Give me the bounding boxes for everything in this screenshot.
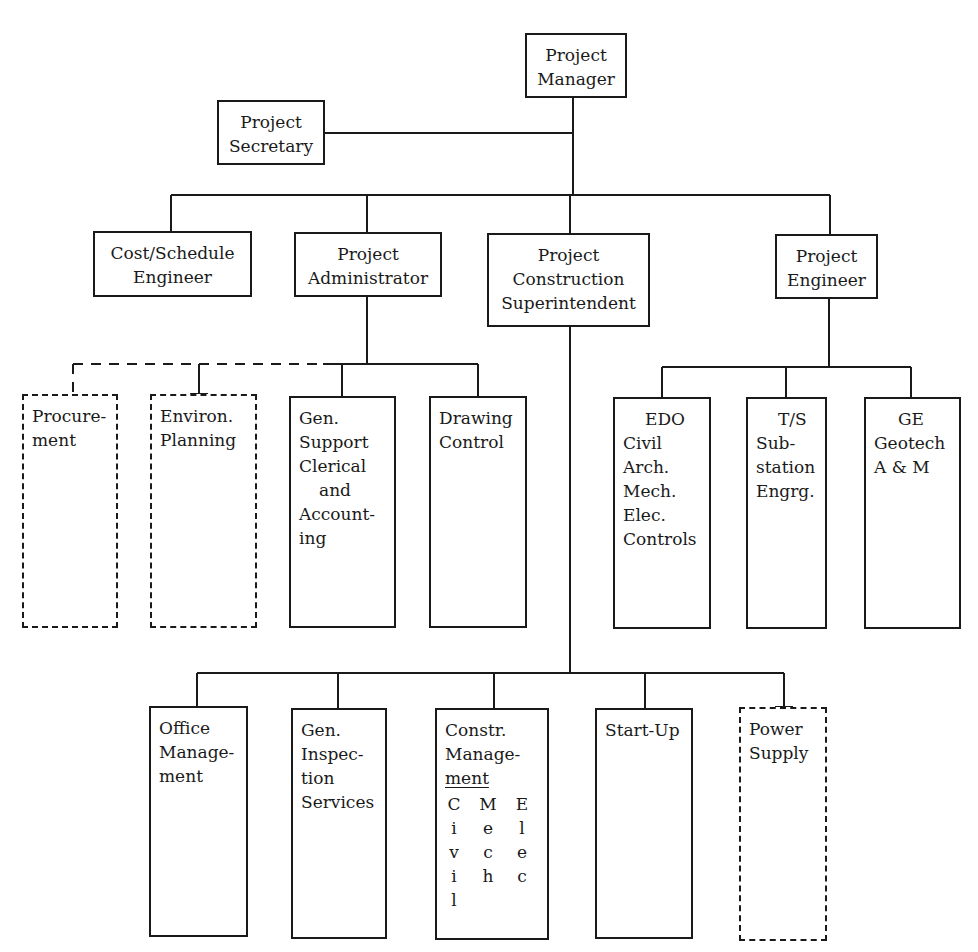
letter: M xyxy=(479,792,496,816)
node-label: Manager xyxy=(529,67,623,91)
node-label: Construction xyxy=(491,267,646,291)
letter: c xyxy=(517,864,527,888)
letter: l xyxy=(519,816,524,840)
node-environ-planning: Environ. Planning xyxy=(150,394,257,628)
letter: v xyxy=(449,840,459,864)
letter: e xyxy=(517,840,527,864)
node-label: Control xyxy=(439,430,525,454)
letter: e xyxy=(483,816,493,840)
node-label: Environ. xyxy=(160,404,255,428)
node-label: ment xyxy=(445,766,547,790)
discipline-mech: M e c h xyxy=(479,792,497,912)
node-label: Planning xyxy=(160,428,255,452)
node-label: station xyxy=(756,455,825,479)
node-label: Supply xyxy=(749,741,825,765)
letter: l xyxy=(451,888,456,912)
node-label: Start-Up xyxy=(605,718,691,742)
node-label: Superintendent xyxy=(491,291,646,315)
node-label: A & M xyxy=(874,455,959,479)
node-drawing-control: Drawing Control xyxy=(429,396,527,628)
node-label: Arch. xyxy=(623,455,709,479)
letter: h xyxy=(483,864,494,888)
node-label: Geotech xyxy=(874,431,959,455)
node-label: Manage- xyxy=(159,740,246,764)
node-label: Account- xyxy=(299,502,394,526)
node-project-administrator: Project Administrator xyxy=(294,232,442,297)
node-label: Cost/Schedule xyxy=(97,241,248,265)
node-label: Procure- xyxy=(32,404,116,428)
letter: E xyxy=(516,792,528,816)
node-label: Support xyxy=(299,430,394,454)
node-label: Elec. xyxy=(623,503,709,527)
node-label: Manage- xyxy=(445,742,547,766)
node-label: Engineer xyxy=(97,265,248,289)
node-label: GE xyxy=(874,407,959,431)
node-label: Services xyxy=(301,790,385,814)
node-label: and xyxy=(299,478,394,502)
letter: i xyxy=(451,864,456,888)
node-label: Gen. xyxy=(301,718,385,742)
node-cost-schedule-engineer: Cost/Schedule Engineer xyxy=(93,231,252,297)
node-label: Project xyxy=(491,243,646,267)
node-label: Inspec- xyxy=(301,742,385,766)
node-label: Office xyxy=(159,716,246,740)
node-label: Civil xyxy=(623,431,709,455)
node-edo: EDO Civil Arch. Mech. Elec. Controls xyxy=(613,397,711,629)
node-label: Project xyxy=(298,242,438,266)
node-project-secretary: Project Secretary xyxy=(217,100,325,165)
node-label: Power xyxy=(749,717,825,741)
node-label: Controls xyxy=(623,527,709,551)
node-label: Engrg. xyxy=(756,479,825,503)
node-project-manager: Project Manager xyxy=(525,33,627,98)
node-label: T/S xyxy=(756,407,825,431)
node-label: Project xyxy=(779,244,874,268)
node-ts-substation: T/S Sub- station Engrg. xyxy=(746,397,827,629)
node-label: Mech. xyxy=(623,479,709,503)
node-label: Secretary xyxy=(221,134,321,158)
letter: i xyxy=(451,816,456,840)
node-start-up: Start-Up xyxy=(595,708,693,939)
node-label: ment xyxy=(159,764,246,788)
node-label: Sub- xyxy=(756,431,825,455)
node-label: tion xyxy=(301,766,385,790)
node-constr-management: Constr. Manage- ment C i v i l M e c h E… xyxy=(435,708,549,940)
discipline-columns: C i v i l M e c h E l e c xyxy=(445,792,531,912)
letter: c xyxy=(483,840,493,864)
node-label: Gen. xyxy=(299,406,394,430)
node-label: Drawing xyxy=(439,406,525,430)
node-label: Project xyxy=(221,110,321,134)
node-label: Engineer xyxy=(779,268,874,292)
node-gen-support: Gen. Support Clerical and Account- ing xyxy=(289,396,396,628)
node-label: Clerical xyxy=(299,454,394,478)
node-ge-geotech: GE Geotech A & M xyxy=(864,397,961,629)
discipline-civil: C i v i l xyxy=(445,792,463,912)
node-office-management: Office Manage- ment xyxy=(149,706,248,937)
node-label: ing xyxy=(299,526,394,550)
discipline-elec: E l e c xyxy=(513,792,531,912)
node-label: Constr. xyxy=(445,718,547,742)
node-procurement: Procure- ment xyxy=(22,394,118,628)
node-construction-superintendent: Project Construction Superintendent xyxy=(487,233,650,327)
node-label: EDO xyxy=(623,407,709,431)
node-project-engineer: Project Engineer xyxy=(775,234,878,299)
node-power-supply: Power Supply xyxy=(739,707,827,941)
node-label: Administrator xyxy=(298,266,438,290)
node-label: Project xyxy=(529,43,623,67)
node-label: ment xyxy=(32,428,116,452)
node-gen-inspection: Gen. Inspec- tion Services xyxy=(291,708,387,939)
letter: C xyxy=(447,792,460,816)
